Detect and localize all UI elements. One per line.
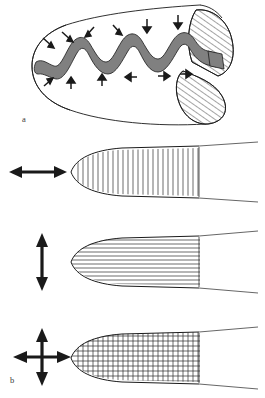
panel-a: a bbox=[22, 0, 250, 135]
tip-profile-b1-lower bbox=[71, 172, 199, 198]
arrow-cross-four-way bbox=[13, 328, 71, 386]
panel-label-b: b bbox=[10, 375, 14, 385]
flank-upper-b3 bbox=[199, 327, 258, 332]
hatch-vertical-b1 bbox=[78, 140, 198, 205]
panel-b2 bbox=[36, 231, 258, 293]
flank-lower-b1 bbox=[199, 198, 258, 202]
panel-label-a: a bbox=[22, 114, 26, 124]
band-stem bbox=[208, 51, 224, 69]
flank-upper-b2 bbox=[199, 231, 258, 236]
arrow-horizontal-double bbox=[9, 166, 67, 178]
panel-b3: b bbox=[10, 326, 258, 392]
panel-b1 bbox=[9, 140, 258, 205]
flank-lower-b3 bbox=[199, 384, 258, 389]
tip-profile-b1 bbox=[71, 146, 199, 172]
hatch-horizontal-b2 bbox=[66, 240, 205, 284]
flank-upper-b1 bbox=[199, 142, 258, 146]
figure-diagram: a bbox=[0, 0, 265, 398]
figure-root: a bbox=[0, 0, 265, 398]
flank-lower-b2 bbox=[199, 288, 258, 293]
arrow-vertical-double bbox=[36, 233, 48, 291]
